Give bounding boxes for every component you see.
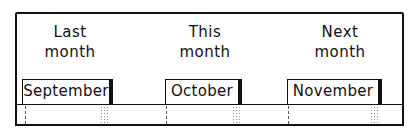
heading-line: month (165, 42, 245, 62)
heading-last-month: Last month (30, 22, 110, 62)
month-tab-november[interactable]: November (287, 79, 379, 105)
strip-divider (288, 106, 289, 124)
month-tab-october[interactable]: October (165, 79, 239, 105)
heading-line: month (30, 42, 110, 62)
heading-line: Next (300, 22, 380, 42)
stipple-shading (370, 106, 380, 124)
month-tab-september[interactable]: September (22, 79, 110, 105)
heading-next-month: Next month (300, 22, 380, 62)
month-strip (15, 104, 404, 126)
strip-divider (25, 106, 26, 124)
heading-this-month: This month (165, 22, 245, 62)
stipple-shading (100, 106, 110, 124)
heading-line: month (300, 42, 380, 62)
stipple-shading (232, 106, 242, 124)
strip-divider (166, 106, 167, 124)
heading-line: This (165, 22, 245, 42)
heading-line: Last (30, 22, 110, 42)
